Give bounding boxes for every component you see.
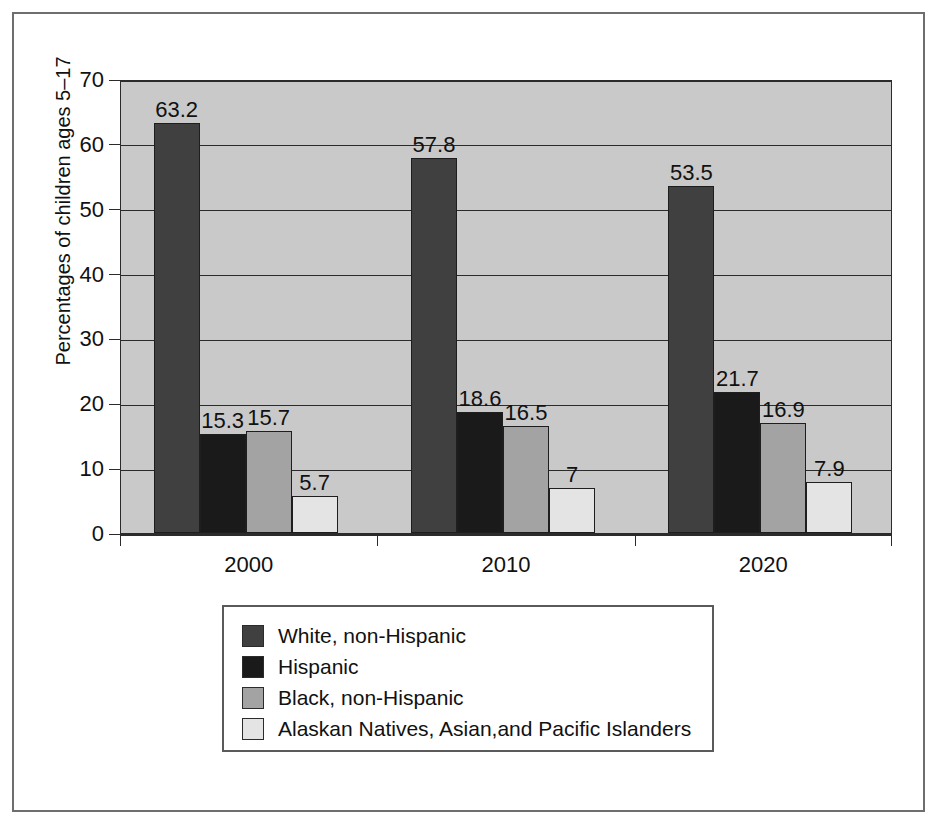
legend-swatch: [242, 718, 264, 740]
y-tick-label: 20: [58, 393, 104, 415]
y-tick-label: 10: [58, 458, 104, 480]
gridline: [121, 275, 891, 276]
x-tick-mark: [120, 534, 121, 546]
legend-item[interactable]: Alaskan Natives, Asian,and Pacific Islan…: [242, 713, 712, 744]
legend-label: Hispanic: [278, 656, 359, 677]
y-tick-label: 40: [58, 264, 104, 286]
x-tick-mark: [635, 534, 636, 546]
bar-value-label: 7: [537, 464, 607, 486]
bar-value-label: 7.9: [794, 458, 864, 480]
bar: [200, 434, 246, 533]
legend-item[interactable]: Black, non-Hispanic: [242, 682, 712, 713]
y-tick-mark: [109, 209, 120, 210]
y-tick-label: 60: [58, 134, 104, 156]
y-tick-label: 70: [58, 69, 104, 91]
bar-value-label: 53.5: [656, 162, 726, 184]
bar: [668, 186, 714, 533]
legend-label: White, non-Hispanic: [278, 625, 466, 646]
legend: White, non-HispanicHispanicBlack, non-Hi…: [222, 605, 714, 752]
gridline: [121, 210, 891, 211]
bar-value-label: 5.7: [280, 472, 350, 494]
bar-value-label: 16.9: [748, 399, 818, 421]
legend-item[interactable]: Hispanic: [242, 651, 712, 682]
x-tick-mark: [891, 534, 892, 546]
bar: [806, 482, 852, 533]
gridline: [121, 145, 891, 146]
bar-value-label: 63.2: [142, 99, 212, 121]
y-tick-mark: [109, 144, 120, 145]
y-tick-mark: [109, 404, 120, 405]
y-tick-mark: [109, 469, 120, 470]
y-tick-mark: [109, 534, 120, 535]
y-tick-mark: [109, 274, 120, 275]
x-tick-mark: [377, 534, 378, 546]
gridline: [121, 81, 891, 82]
x-tick-label: 2000: [189, 552, 309, 578]
bar: [549, 488, 595, 533]
y-tick-mark: [109, 339, 120, 340]
gridline: [121, 340, 891, 341]
x-axis-line: [120, 534, 892, 536]
y-tick-label: 30: [58, 328, 104, 350]
bar: [411, 158, 457, 533]
bar-value-label: 21.7: [702, 368, 772, 390]
bar: [292, 496, 338, 533]
bar: [457, 412, 503, 533]
bar-value-label: 57.8: [399, 134, 469, 156]
plot-area: 63.215.315.75.757.818.616.5753.521.716.9…: [120, 80, 892, 534]
y-tick-mark: [109, 80, 120, 81]
figure-frame: Percentages of children ages 5–17 010203…: [12, 12, 925, 812]
bar-value-label: 15.7: [234, 407, 304, 429]
bar: [154, 123, 200, 533]
x-tick-label: 2020: [703, 552, 823, 578]
legend-label: Alaskan Natives, Asian,and Pacific Islan…: [278, 718, 691, 739]
x-tick-label: 2010: [446, 552, 566, 578]
legend-swatch: [242, 656, 264, 678]
legend-label: Black, non-Hispanic: [278, 687, 464, 708]
y-axis: 010203040506070: [48, 80, 120, 534]
legend-swatch: [242, 625, 264, 647]
y-tick-label: 50: [58, 199, 104, 221]
bar-value-label: 16.5: [491, 402, 561, 424]
legend-item[interactable]: White, non-Hispanic: [242, 620, 712, 651]
y-tick-label: 0: [58, 523, 104, 545]
legend-swatch: [242, 687, 264, 709]
x-axis: 200020102020: [120, 534, 892, 594]
